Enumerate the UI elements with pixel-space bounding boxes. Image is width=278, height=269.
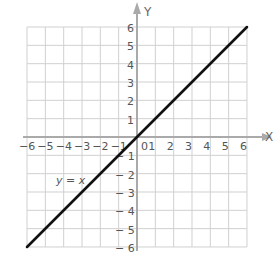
y-tick-label: − 4 — [115, 205, 135, 218]
y-tick-label: 6 — [127, 22, 134, 35]
x-tick-label: −4 — [56, 140, 72, 153]
y-tick-label: 5 — [127, 40, 134, 53]
x-tick-label: −2 — [92, 140, 108, 153]
x-tick-label: 4 — [203, 140, 210, 153]
y-tick-label: − 6 — [115, 242, 135, 255]
y-axis-arrow-icon — [133, 2, 141, 14]
x-tick-label: 5 — [222, 140, 229, 153]
x-tick-label: 1 — [148, 140, 155, 153]
x-tick-label: 6 — [240, 140, 247, 153]
y-tick-label: − 5 — [115, 224, 135, 237]
y-tick-label: − 2 — [115, 169, 135, 182]
line-chart: −6−5−4−3−2−10123456− 6− 5− 4− 3− 2− 1123… — [0, 0, 278, 269]
x-tick-label: 3 — [185, 140, 192, 153]
x-tick-label: 0 — [141, 140, 148, 153]
x-tick-label: −5 — [37, 140, 53, 153]
y-tick-label: 2 — [127, 95, 134, 108]
y-tick-label: 4 — [127, 59, 134, 72]
y-tick-label: 3 — [127, 77, 134, 90]
x-tick-label: −6 — [19, 140, 35, 153]
y-tick-label: − 3 — [115, 187, 135, 200]
x-tick-label: 2 — [167, 140, 174, 153]
equation-label: y = x — [55, 174, 86, 187]
x-tick-label: −3 — [74, 140, 90, 153]
x-axis-label: X — [265, 130, 273, 144]
y-axis-label: Y — [143, 5, 152, 19]
y-tick-label: 1 — [127, 114, 134, 127]
